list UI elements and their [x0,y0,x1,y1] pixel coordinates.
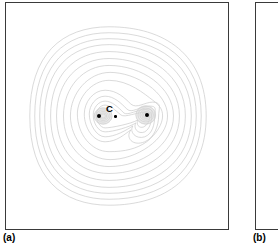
contour-plot-b [256,3,278,229]
figure-root: C (a) (b) [0,0,278,245]
contour-plot-a [6,3,228,229]
atom-label-c: C [106,104,113,114]
bond-midpoint-dot [114,115,117,118]
contour-panel-b [255,2,278,230]
contour-panel-a: C [5,2,229,230]
panel-caption-b: (b) [253,233,266,243]
nucleus-dot-o [145,113,149,117]
contour-lines-a [30,27,206,205]
panel-caption-a: (a) [3,233,15,243]
nucleus-dot-c [97,114,101,118]
